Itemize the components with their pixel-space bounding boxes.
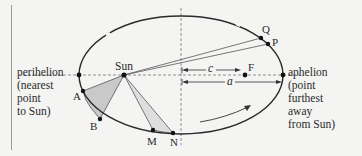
sun-label: Sun: [115, 60, 133, 73]
point-q-label: Q: [262, 23, 270, 36]
focus-label: F: [248, 61, 254, 74]
point-b: [98, 117, 102, 121]
point-q: [259, 36, 263, 40]
point-p-label: P: [272, 36, 278, 49]
perihelion-label: perihelion (nearest point to Sun): [17, 66, 64, 118]
sun-point: [121, 72, 126, 77]
a-arrowhead-left: [182, 80, 188, 84]
point-m: [151, 128, 155, 132]
focus-point: [243, 73, 248, 78]
point-n-label: N: [170, 136, 178, 149]
aphelion-point: [281, 73, 286, 78]
aphelion-label: aphelion (point furthest away from Sun): [288, 66, 335, 131]
radius-sun-q: [124, 38, 261, 75]
point-a: [81, 89, 85, 93]
a-label: a: [227, 75, 233, 88]
perihelion-point: [77, 73, 82, 78]
point-n: [171, 131, 175, 135]
a-arrowhead-right: [276, 80, 282, 84]
c-arrowhead-left: [182, 68, 188, 72]
motion-direction-arrow: [200, 107, 248, 122]
orbit-tick-left: [106, 33, 110, 35]
point-m-label: M: [147, 135, 157, 148]
point-a-label: A: [73, 90, 81, 103]
swept-area-ab: [83, 75, 124, 119]
c-label: c: [208, 62, 213, 75]
swept-area-mn: [124, 75, 173, 133]
point-p: [266, 42, 270, 46]
point-b-label: B: [90, 120, 97, 133]
c-arrowhead-right: [235, 68, 241, 72]
